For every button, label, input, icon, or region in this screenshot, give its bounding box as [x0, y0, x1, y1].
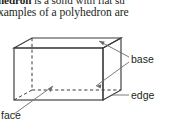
- leader-lines-group: [14, 41, 129, 114]
- label-base: base: [131, 53, 154, 65]
- figure-page: hedron is a solid with flat su xamples o…: [0, 0, 170, 122]
- face-arrowhead: [48, 86, 53, 92]
- label-edge: edge: [131, 89, 155, 101]
- hidden-bottom-left-edge: [14, 90, 32, 100]
- polyhedron-figure: base edge face: [0, 24, 170, 122]
- base-bottom-leader-line: [96, 62, 129, 86]
- body-text-block: hedron is a solid with flat su xamples o…: [0, 0, 170, 24]
- front-face: [14, 48, 103, 100]
- right-face: [103, 38, 121, 100]
- base-top-arrowhead: [99, 41, 105, 46]
- label-face: face: [1, 109, 21, 121]
- body-text-line-2: xamples of a polyhedron are: [0, 6, 129, 19]
